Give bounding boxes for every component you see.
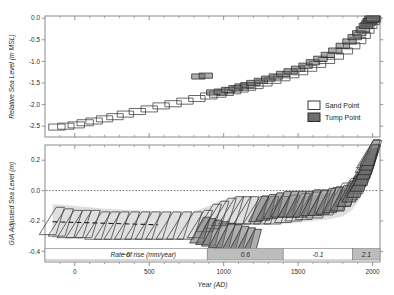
lower-xtick-label: 2000 <box>365 268 380 275</box>
lower-ytick-label: 0.2 <box>31 156 40 163</box>
lower-ytick-label: -0.4 <box>29 248 40 255</box>
upper-ytick-label: -2.0 <box>29 101 40 108</box>
lower-yaxis-title: GIA Adjusted Sea Level (m) <box>8 162 16 246</box>
upper-ytick-label: 0.0 <box>31 14 40 21</box>
rate-bar-segment-label: 2.1 <box>361 251 371 258</box>
lower-panel: 05001000150020000.20.0-0.2-0.4~00.6-0.12… <box>29 140 383 275</box>
rate-bar-segment-label: 0.6 <box>241 251 250 258</box>
rate-bar-segment-label: -0.1 <box>312 251 324 258</box>
lower-xtick-label: 1000 <box>217 268 232 275</box>
lower-xtick-label: 1500 <box>291 268 306 275</box>
sea-level-figure: 0.0-0.5-1.0-1.5-2.0-2.5Sand PointTump Po… <box>0 0 394 295</box>
upper-yaxis-title: Relative Sea Level (m MSL) <box>8 34 16 119</box>
rate-bar-title: Rate of rise (mm/year) <box>110 251 176 259</box>
legend-swatch-sand-point <box>308 101 320 110</box>
legend-swatch-tump-point <box>308 113 320 122</box>
upper-ytick-label: -2.5 <box>29 122 40 129</box>
lower-xtick-label: 500 <box>144 268 155 275</box>
legend-label-sand-point: Sand Point <box>325 102 359 109</box>
error-box <box>366 16 379 21</box>
rate-of-rise-bar: ~00.6-0.12.1Rate of rise (mm/year) <box>45 249 380 261</box>
upper-ytick-label: -0.5 <box>29 36 40 43</box>
legend-label-tump-point: Tump Point <box>325 114 361 122</box>
figure-canvas: 0.0-0.5-1.0-1.5-2.0-2.5Sand PointTump Po… <box>0 0 394 295</box>
lower-xtick-label: 0 <box>73 268 77 275</box>
lower-xaxis-title: Year (AD) <box>198 281 228 289</box>
lower-ytick-label: -0.2 <box>29 217 40 224</box>
error-box <box>199 73 212 78</box>
lower-ytick-label: 0.0 <box>31 187 40 194</box>
upper-panel: 0.0-0.5-1.0-1.5-2.0-2.5Sand PointTump Po… <box>29 14 383 137</box>
upper-ytick-label: -1.0 <box>29 58 40 65</box>
upper-ytick-label: -1.5 <box>29 79 40 86</box>
